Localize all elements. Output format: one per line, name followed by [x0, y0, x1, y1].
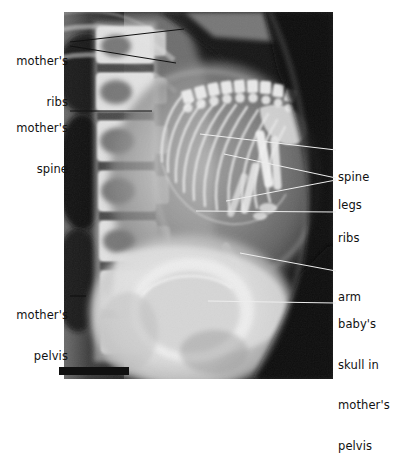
label-babys-skull-line1: baby's	[338, 318, 390, 332]
scale-bar	[59, 367, 129, 375]
xray-plate	[64, 12, 333, 379]
label-babys-skull-line2: skull in	[338, 359, 390, 373]
label-mothers-spine-line1: mother's	[2, 122, 68, 136]
xray-image	[64, 12, 333, 379]
label-babys-skull: baby's skull in mother's pelvis	[338, 291, 390, 457]
label-ribs: ribs	[338, 205, 360, 273]
label-ribs-line1: ribs	[338, 232, 360, 246]
label-babys-skull-line4: pelvis	[338, 440, 390, 454]
label-mothers-spine: mother's spine	[2, 95, 68, 203]
label-mothers-pelvis: mother's pelvis	[2, 282, 68, 390]
label-babys-skull-line3: mother's	[338, 399, 390, 413]
label-mothers-pelvis-line2: pelvis	[2, 350, 68, 364]
label-mothers-pelvis-line1: mother's	[2, 309, 68, 323]
label-mothers-ribs-line1: mother's	[2, 55, 68, 69]
label-mothers-spine-line2: spine	[2, 163, 68, 177]
